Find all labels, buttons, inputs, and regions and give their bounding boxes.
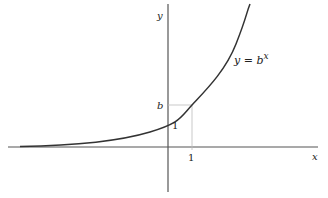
- y-axis-label: y: [156, 10, 163, 21]
- x-tick-one-label: 1: [188, 152, 194, 163]
- y-intercept-label: 1: [172, 120, 178, 131]
- curve-exponent: x: [263, 51, 268, 61]
- curve-equation-label: y = bx: [233, 51, 269, 67]
- x-axis-label: x: [312, 151, 318, 162]
- exponential-graph: y x b 1 1 y = bx: [0, 0, 328, 198]
- b-tick-label: b: [157, 100, 163, 111]
- exponential-curve: [20, 4, 250, 147]
